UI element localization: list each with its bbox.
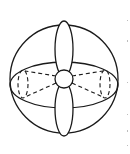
top-lobe-ellipse: [55, 21, 73, 77]
scan-speck: [127, 82, 128, 83]
scan-speck: [127, 130, 128, 132]
left-dashed-ellipse: [18, 70, 28, 98]
bottom-lobe-ellipse: [55, 82, 73, 136]
scan-speck: [127, 40, 128, 42]
scan-speck: [127, 114, 128, 115]
sphere-diagram: [0, 0, 130, 154]
dashed-line-left-lower: [25, 83, 56, 97]
scan-speck: [127, 20, 128, 21]
dashed-line-right-upper: [72, 71, 103, 76]
center-circle: [55, 70, 73, 88]
diagram-canvas: [0, 0, 130, 154]
dashed-line-right-lower: [72, 83, 103, 97]
dashed-line-left-upper: [25, 71, 56, 76]
scan-speck: [127, 145, 128, 146]
right-dashed-ellipse: [100, 70, 110, 98]
